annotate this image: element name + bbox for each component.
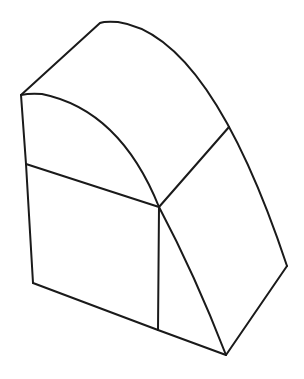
vertical-edge <box>158 207 159 330</box>
right-bottom-edge <box>226 266 287 355</box>
left-edge <box>21 95 33 283</box>
outer-top-edge <box>21 22 287 266</box>
inner-arc-edge <box>21 94 226 355</box>
diagonal-edge <box>159 127 229 207</box>
solid-figure-drawing: Isometric line drawing of a solid block … <box>0 0 304 379</box>
solid-figure-svg <box>0 0 304 379</box>
middle-edge <box>26 164 159 207</box>
bottom-edge <box>33 283 226 355</box>
